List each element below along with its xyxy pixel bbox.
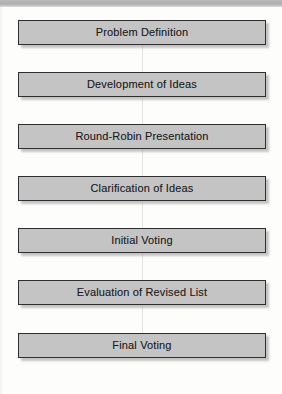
flow-node-evaluation-of-revised-list[interactable]: Evaluation of Revised List	[18, 280, 266, 305]
connector-step-4-to-step-5	[142, 201, 143, 228]
flow-node-label: Clarification of Ideas	[91, 183, 194, 194]
flow-node-label: Final Voting	[112, 340, 171, 351]
connector-step-6-to-step-7	[142, 305, 143, 333]
flow-node-label: Development of Ideas	[87, 79, 197, 90]
flowchart: Problem Definition Development of Ideas …	[0, 0, 282, 394]
flow-node-initial-voting[interactable]: Initial Voting	[18, 228, 266, 253]
flow-node-round-robin-presentation[interactable]: Round-Robin Presentation	[18, 124, 266, 149]
flow-node-label: Round-Robin Presentation	[75, 131, 208, 142]
connector-step-3-to-step-4	[142, 149, 143, 176]
flow-node-label: Problem Definition	[96, 27, 189, 38]
flow-node-label: Evaluation of Revised List	[77, 287, 207, 298]
flow-node-problem-definition[interactable]: Problem Definition	[18, 20, 266, 45]
connector-step-2-to-step-3	[142, 97, 143, 124]
flow-node-clarification-of-ideas[interactable]: Clarification of Ideas	[18, 176, 266, 201]
flow-node-label: Initial Voting	[111, 235, 172, 246]
connector-step-5-to-step-6	[142, 253, 143, 280]
connector-step-1-to-step-2	[142, 45, 143, 72]
flow-node-development-of-ideas[interactable]: Development of Ideas	[18, 72, 266, 97]
flow-node-final-voting[interactable]: Final Voting	[18, 333, 266, 358]
